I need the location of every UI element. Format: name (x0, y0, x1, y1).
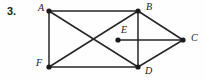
vertex-label-c: C (191, 33, 198, 43)
vertex-f (46, 64, 51, 69)
vertex-a (46, 8, 51, 13)
figure-page: 3. ABCDEF (0, 0, 206, 80)
vertex-label-a: A (38, 3, 44, 13)
edge-b-c (138, 11, 183, 40)
vertices-group (46, 8, 185, 69)
vertex-b (135, 8, 140, 13)
edge-d-c (138, 40, 183, 67)
graph-diagram (0, 0, 206, 80)
vertex-c (180, 37, 185, 42)
vertex-label-b: B (146, 2, 152, 12)
vertex-label-f: F (36, 58, 42, 68)
vertex-label-e: E (121, 25, 127, 35)
vertex-label-d: D (145, 66, 152, 76)
vertex-e (115, 37, 120, 42)
vertex-d (135, 64, 140, 69)
